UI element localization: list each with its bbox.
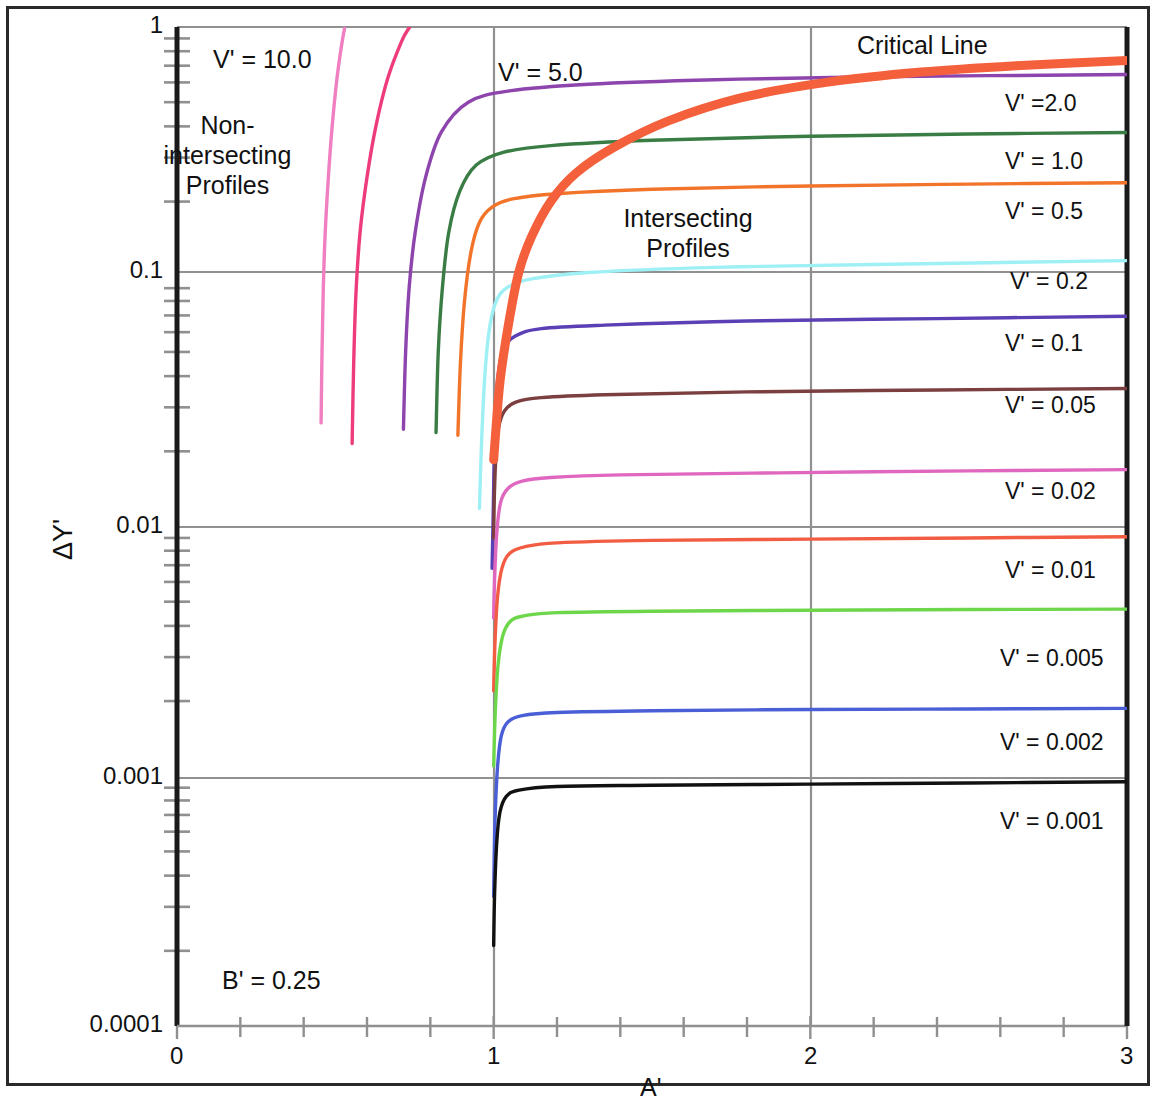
- gridlines: [177, 27, 1127, 1026]
- y-tick-label: 0.001: [103, 762, 163, 790]
- series-label-v-0-2: V' = 0.2: [1010, 268, 1088, 295]
- annotation-line-2: Profiles: [598, 233, 778, 263]
- curve-v-10-0: [321, 27, 345, 423]
- annotation-v-5: V' = 5.0: [498, 57, 583, 87]
- curve-v-5-0: [352, 27, 410, 443]
- series-label-v-2-0: V' =2.0: [1005, 90, 1077, 117]
- y-tick-label: 1: [150, 11, 163, 39]
- figure-container: 10.10.010.0010.00010123 V' =2.0V' = 1.0V…: [0, 0, 1156, 1116]
- y-tick-label: 0.1: [130, 256, 163, 284]
- series-label-v-0-5: V' = 0.5: [1005, 198, 1083, 225]
- annotation-intersecting: Intersecting Profiles: [598, 203, 778, 263]
- series-label-v-0-1: V' = 0.1: [1005, 330, 1083, 357]
- series-label-v-0-002: V' = 0.002: [1000, 729, 1104, 756]
- annotation-line-3: Profiles: [155, 170, 300, 200]
- annotation-critical-line: Critical Line: [857, 30, 988, 60]
- x-axis-title: A': [640, 1073, 661, 1102]
- x-tick-label: 2: [804, 1042, 817, 1070]
- series-label-v-0-01: V' = 0.01: [1005, 557, 1096, 584]
- y-tick-label: 0.01: [116, 511, 163, 539]
- annotation-b-prime: B' = 0.25: [222, 965, 321, 995]
- y-tick-label: 0.0001: [90, 1010, 163, 1038]
- series-label-v-0-02: V' = 0.02: [1005, 478, 1096, 505]
- annotation-line-1: Intersecting: [598, 203, 778, 233]
- annotation-line-1: Non-: [155, 110, 300, 140]
- series-label-v-0-05: V' = 0.05: [1005, 392, 1096, 419]
- series-label-v-1-0: V' = 1.0: [1005, 148, 1083, 175]
- annotation-v-10: V' = 10.0: [213, 44, 312, 74]
- x-tick-label: 3: [1120, 1042, 1133, 1070]
- x-tick-label: 1: [487, 1042, 500, 1070]
- series-label-v-0-005: V' = 0.005: [1000, 645, 1104, 672]
- y-axis-title: ΔY': [48, 519, 79, 560]
- annotation-non-intersecting: Non- intersecting Profiles: [155, 110, 300, 200]
- series-label-v-0-001: V' = 0.001: [1000, 808, 1104, 835]
- annotation-line-2: intersecting: [155, 140, 300, 170]
- x-tick-label: 0: [170, 1042, 183, 1070]
